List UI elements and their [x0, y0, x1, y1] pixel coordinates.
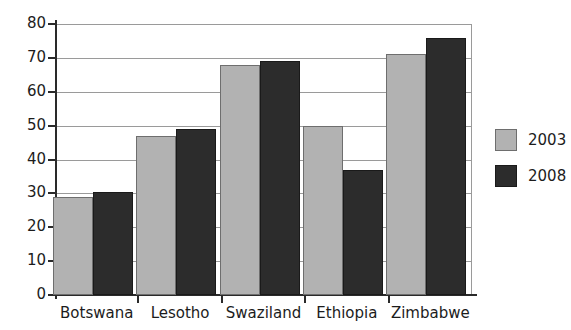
- bar-botswana-2008: [93, 192, 133, 295]
- legend-swatch-2003: [495, 129, 517, 151]
- x-axis-label-ethiopia: Ethiopia: [305, 306, 388, 321]
- legend: 20032008: [495, 122, 565, 194]
- legend-swatch-2008: [495, 165, 517, 187]
- bar-lesotho-2003: [136, 136, 176, 295]
- legend-label-2003: 2003: [528, 133, 566, 148]
- x-axis-label-lesotho: Lesotho: [138, 306, 221, 321]
- x-axis-label-botswana: Botswana: [55, 306, 138, 321]
- y-axis-tick-label: 50: [6, 118, 46, 133]
- legend-label-2008: 2008: [528, 169, 566, 184]
- bar-botswana-2003: [53, 197, 93, 295]
- bar-zimbabwe-2003: [386, 54, 426, 295]
- bar-lesotho-2008: [176, 129, 216, 295]
- x-axis-tick: [137, 294, 139, 303]
- y-axis-tick-label: 60: [6, 84, 46, 99]
- y-axis-tick-label: 10: [6, 253, 46, 268]
- legend-item-2003: 2003: [495, 122, 565, 158]
- bar-ethiopia-2008: [343, 170, 383, 295]
- y-axis-tick-label: 80: [6, 16, 46, 31]
- y-axis-tick: [48, 125, 56, 127]
- y-axis-tick-label: 0: [6, 287, 46, 302]
- bar-zimbabwe-2008: [426, 38, 466, 295]
- x-axis-label-zimbabwe: Zimbabwe: [389, 306, 472, 321]
- y-axis-tick: [48, 192, 56, 194]
- legend-item-2008: 2008: [495, 158, 565, 194]
- y-axis-tick: [48, 23, 56, 25]
- y-axis-tick: [48, 57, 56, 59]
- x-axis-tick: [221, 294, 223, 303]
- x-axis-tick: [304, 294, 306, 303]
- y-axis-tick-label: 70: [6, 50, 46, 65]
- y-axis-tick: [48, 91, 56, 93]
- bar-ethiopia-2003: [303, 126, 343, 295]
- bar-swaziland-2008: [260, 61, 300, 295]
- x-axis-label-swaziland: Swaziland: [222, 306, 305, 321]
- y-axis-tick-label: 40: [6, 152, 46, 167]
- y-axis-tick: [48, 159, 56, 161]
- bar-swaziland-2003: [220, 65, 260, 295]
- bar-chart: 01020304050607080 BotswanaLesothoSwazila…: [0, 0, 571, 330]
- gridline: [55, 24, 472, 25]
- y-axis-tick-label: 30: [6, 185, 46, 200]
- y-axis-tick-label: 20: [6, 219, 46, 234]
- x-axis-tick: [388, 294, 390, 303]
